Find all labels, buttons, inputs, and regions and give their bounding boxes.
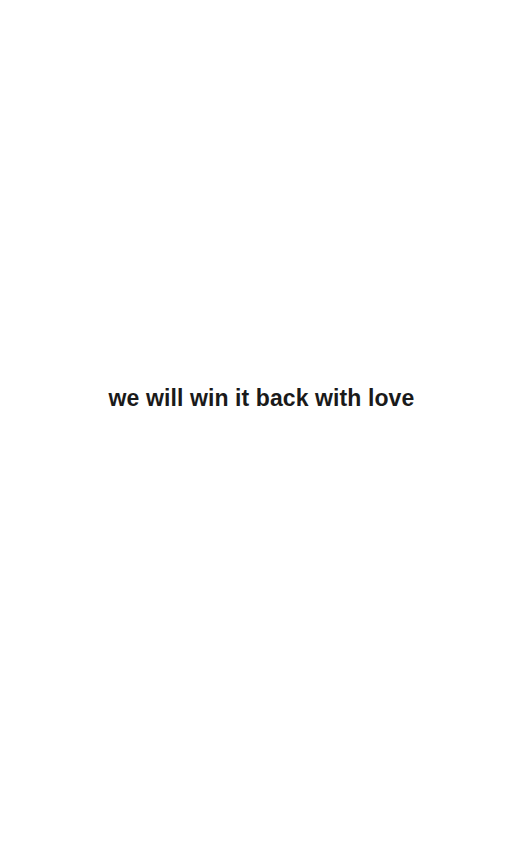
quote-text: we will win it back with love	[0, 383, 523, 413]
page-canvas: we will win it back with love	[0, 0, 523, 865]
